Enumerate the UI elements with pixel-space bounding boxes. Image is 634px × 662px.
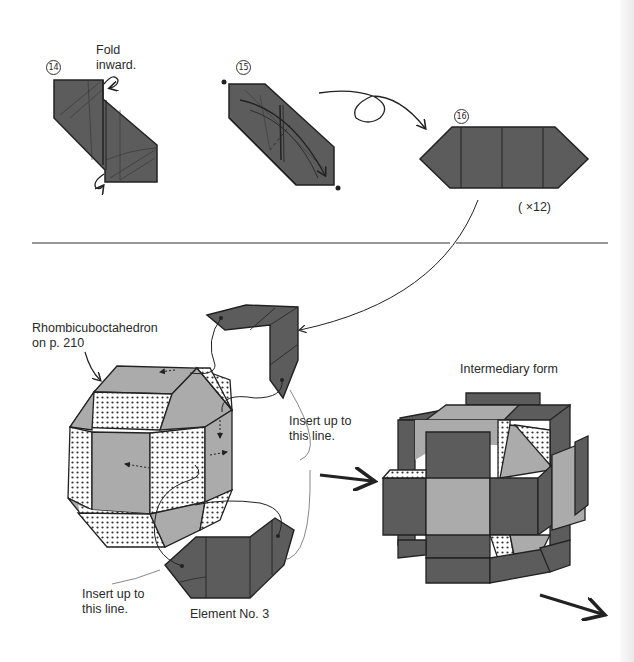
- fold-instruction-line1: Fold: [96, 43, 120, 58]
- step16-finished-unit: [420, 127, 588, 188]
- step-number-16: 16: [454, 109, 469, 124]
- insert-label-upper-line1: Insert up to: [289, 414, 352, 429]
- step14-folded-unit: [54, 80, 157, 182]
- insert-label-lower-line1: Insert up to: [82, 587, 145, 602]
- next-step-arrow-icon: [320, 475, 372, 481]
- turn-over-arrow-icon: [319, 91, 425, 128]
- long-curve-arrow-icon: [300, 200, 478, 330]
- element-label: Element No. 3: [190, 607, 269, 622]
- fold-arrow-top-icon: [104, 77, 118, 88]
- intermediary-form-model: [383, 393, 588, 583]
- connector-line: [190, 318, 221, 374]
- reference-dot-icon: [222, 80, 227, 85]
- insert-guide-line: [112, 570, 160, 584]
- step-number-14: 14: [46, 60, 61, 75]
- model-label-line2: on p. 210: [32, 336, 84, 351]
- diagram-page: 14 15 16 Fold inward. ( ×12) Rhombicuboc…: [0, 0, 634, 662]
- model-label-line1: Rhombicuboctahedron: [32, 321, 158, 336]
- fold-arrow-bottom-icon: [95, 174, 104, 189]
- next-step-arrow-icon: [540, 595, 602, 614]
- unit-multiplier: ( ×12): [518, 200, 551, 215]
- fold-instruction-line2: inward.: [96, 58, 136, 73]
- page-edge-shadow: [620, 0, 634, 662]
- rhombicuboctahedron-model: [68, 366, 232, 547]
- model-pointer-arrow-icon: [85, 352, 100, 380]
- insert-label-upper-line2: this line.: [289, 429, 335, 444]
- insert-label-lower-line2: this line.: [82, 602, 128, 617]
- intermediary-label: Intermediary form: [460, 362, 558, 377]
- reference-dot-icon: [336, 186, 341, 191]
- step-number-15: 15: [236, 60, 251, 75]
- step15-unit: [229, 84, 334, 185]
